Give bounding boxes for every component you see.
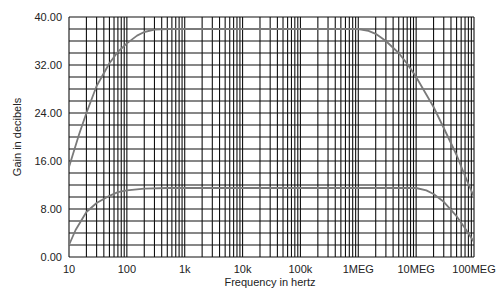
x-tick-label: 10 — [63, 263, 75, 275]
x-tick-label: 10k — [234, 263, 252, 275]
x-tick-label: 100MEG — [452, 263, 495, 275]
plot-grid — [69, 17, 474, 257]
x-tick-label: 1MEG — [343, 263, 374, 275]
y-axis-title: Gain in decibels — [11, 97, 23, 176]
y-tick-label: 24.00 — [34, 107, 62, 119]
x-axis-ticks: 101001k10k100k1MEG10MEG100MEG — [63, 263, 496, 275]
gain-frequency-chart: 0.008.0016.0024.0032.0040.00 101001k10k1… — [0, 0, 499, 300]
x-tick-label: 1k — [179, 263, 191, 275]
y-tick-label: 0.00 — [41, 251, 62, 263]
y-tick-label: 16.00 — [34, 155, 62, 167]
y-axis-ticks: 0.008.0016.0024.0032.0040.00 — [34, 11, 62, 263]
y-tick-label: 32.00 — [34, 59, 62, 71]
y-tick-label: 40.00 — [34, 11, 62, 23]
x-tick-label: 10MEG — [397, 263, 434, 275]
x-tick-label: 100 — [118, 263, 136, 275]
y-tick-label: 8.00 — [41, 203, 62, 215]
x-tick-label: 100k — [288, 263, 312, 275]
x-axis-title: Frequency in hertz — [224, 276, 315, 288]
